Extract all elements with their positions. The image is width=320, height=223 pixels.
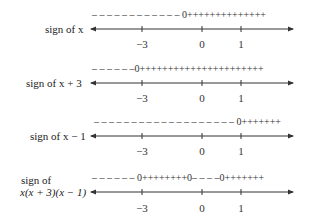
row-label-line-2: x(x + 3)(x − 1) <box>20 187 86 198</box>
row-label: sign of x <box>45 24 84 35</box>
sign-chart: – – – – – –0++++++++++++++++++++++ <box>92 64 264 74</box>
sign-chart: – – – – – – – – – – – – 0++++++++++++++ <box>92 10 266 20</box>
tick-label-neg3: −3 <box>136 93 148 104</box>
sign-chart: – – – – – – 0++++++++0– – – –0+++++++ <box>92 173 264 183</box>
tick-label-1: 1 <box>238 39 244 50</box>
tick-label-neg3: −3 <box>136 39 148 50</box>
row-label: sign of x(x + 3)(x − 1) <box>20 175 86 198</box>
sign-chart: – – – – – – – – – – – – – – – – – – – 0+… <box>94 117 281 127</box>
number-line-1 <box>90 26 294 32</box>
row-label: sign of x − 1 <box>30 131 86 142</box>
tick-label-0: 0 <box>199 146 205 157</box>
row-label-text: sign of x − 1 <box>30 130 86 142</box>
number-line-4 <box>90 189 294 195</box>
tick-label-0: 0 <box>199 93 205 104</box>
number-line-2 <box>90 80 294 86</box>
tick-label-0: 0 <box>199 39 205 50</box>
tick-label-neg3: −3 <box>136 203 148 214</box>
row-label: sign of x + 3 <box>26 78 82 89</box>
tick-label-1: 1 <box>238 93 244 104</box>
tick-label-1: 1 <box>238 203 244 214</box>
row-label-text: sign of x + 3 <box>26 77 82 89</box>
row-label-text: sign of x <box>45 23 84 35</box>
row-label-line-1: sign of <box>20 175 86 186</box>
tick-label-1: 1 <box>238 146 244 157</box>
number-line-3 <box>90 133 294 139</box>
tick-label-neg3: −3 <box>136 146 148 157</box>
tick-label-0: 0 <box>199 203 205 214</box>
